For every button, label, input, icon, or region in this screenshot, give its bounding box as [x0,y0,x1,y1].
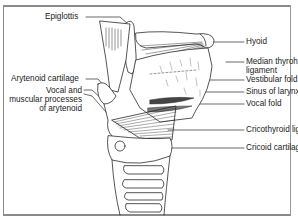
label-cricothyroid-ligament: Cricothyroid ligament [246,125,298,134]
label-epiglottis: Epiglottis [45,12,78,21]
label-line: of arytenoid [9,104,82,113]
label-sinus-of-larynx: Sinus of larynx [246,87,298,96]
label-vocal-fold: Vocal fold [246,99,282,108]
label-hyoid: Hyoid [246,37,267,46]
label-line: Vocal and [9,86,82,95]
label-vestibular-fold: Vestibular fold [246,75,297,84]
label-line: Median thyrohyoid [246,57,298,66]
label-arytenoid-cartilage: Arytenoid cartilage [11,74,79,83]
label-line: muscular processes [9,95,82,104]
label-line: ligament [246,66,298,75]
label-median-thyrohyoid-ligament: Median thyrohyoid ligament [246,57,298,75]
label-cricoid-cartilage: Cricoid cartilage (ring) [246,143,298,152]
label-vocal-muscular-processes: Vocal and muscular processes of arytenoi… [9,86,82,113]
